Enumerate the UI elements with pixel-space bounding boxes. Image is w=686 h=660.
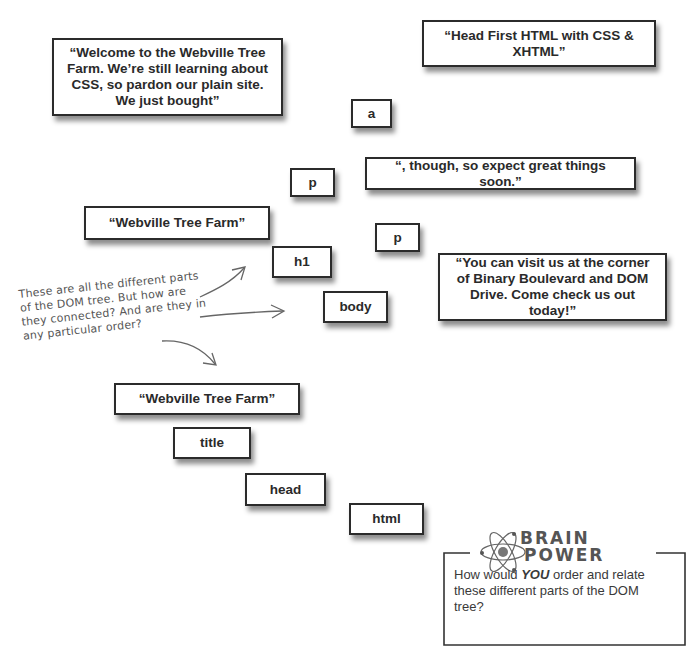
question-text-start: How would: [454, 567, 521, 582]
element-node-p-second[interactable]: p: [375, 223, 420, 252]
brain-power-question: How would YOU order and relate these dif…: [454, 567, 664, 615]
element-node-head[interactable]: head: [245, 473, 326, 506]
text-node-visit[interactable]: “You can visit us at the corner of Binar…: [438, 253, 667, 321]
element-node-html[interactable]: html: [349, 503, 424, 535]
annotation-note: These are all the different parts of the…: [18, 269, 208, 344]
text-node-book-title[interactable]: “Head First HTML with CSS & XHTML”: [422, 20, 656, 67]
element-node-h1[interactable]: h1: [272, 246, 332, 278]
text-node-welcome[interactable]: “Welcome to the Webville Tree Farm. We’r…: [52, 38, 283, 116]
text-node-though[interactable]: “, though, so expect great things soon.”: [365, 157, 636, 190]
text-node-title[interactable]: “Webville Tree Farm”: [114, 383, 300, 415]
element-node-body[interactable]: body: [323, 291, 388, 323]
brain-power-box: BRAIN POWER How would YOU order and rela…: [440, 552, 686, 646]
brain-power-title-line2: POWER: [524, 547, 604, 564]
element-node-title[interactable]: title: [173, 427, 251, 459]
element-node-a[interactable]: a: [351, 99, 392, 128]
text-node-heading[interactable]: “Webville Tree Farm”: [84, 206, 270, 240]
brain-power-title: BRAIN POWER: [520, 530, 604, 564]
element-node-p-first[interactable]: p: [290, 168, 335, 197]
question-emphasis: YOU: [521, 567, 549, 582]
